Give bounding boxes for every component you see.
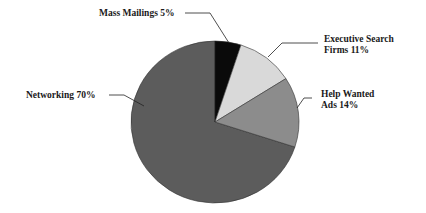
leader-line-executive-search <box>268 43 318 57</box>
label-mass-mailings: Mass Mailings 5% <box>99 8 174 19</box>
leader-line-help-wanted <box>297 98 312 108</box>
label-executive-search-line2: Firms 11% <box>324 45 394 56</box>
label-help-wanted-line1: Help Wanted <box>321 89 374 100</box>
label-help-wanted: Help Wanted Ads 14% <box>321 89 374 111</box>
label-help-wanted-line2: Ads 14% <box>321 100 374 111</box>
label-executive-search-line1: Executive Search <box>324 34 394 45</box>
leader-line-mass-mailings <box>185 13 229 43</box>
label-executive-search: Executive Search Firms 11% <box>324 34 394 56</box>
label-networking: Networking 70% <box>26 90 95 101</box>
